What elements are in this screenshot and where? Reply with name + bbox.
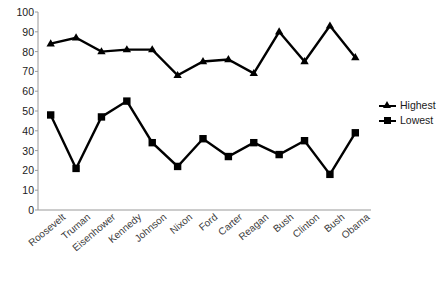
data-point-marker	[174, 163, 181, 170]
data-point-marker	[199, 135, 206, 142]
y-axis-tick-label: 100	[4, 7, 34, 18]
x-axis-tick-label: Clinton	[291, 212, 321, 240]
legend-item-lowest: Lowest	[379, 114, 443, 127]
data-point-marker	[72, 165, 79, 172]
x-axis-tick-labels: RooseveltTrumanEisenhowerKennedyJohnsonN…	[0, 212, 445, 291]
data-point-marker	[301, 137, 308, 144]
data-point-marker	[149, 139, 156, 146]
data-point-marker	[47, 111, 54, 118]
y-axis-tick-label: 60	[4, 86, 34, 97]
legend-label-highest: Highest	[400, 100, 436, 111]
chart-series	[46, 21, 359, 178]
y-axis-tick-label: 10	[4, 185, 34, 196]
y-axis-tick-label: 90	[4, 27, 34, 38]
y-axis-tick-label: 30	[4, 145, 34, 156]
y-axis-tick-label: 80	[4, 46, 34, 57]
legend-label-lowest: Lowest	[400, 115, 433, 126]
data-point-marker	[72, 33, 80, 40]
line-chart: 0102030405060708090100 RooseveltTrumanEi…	[0, 0, 445, 291]
y-axis-tick-labels: 0102030405060708090100	[0, 12, 34, 210]
y-axis-tick-label: 20	[4, 165, 34, 176]
data-point-marker	[352, 129, 359, 136]
triangle-marker-icon	[379, 100, 396, 111]
data-point-marker	[250, 139, 257, 146]
y-axis-tick-label: 70	[4, 66, 34, 77]
series-line-highest	[51, 26, 356, 76]
x-axis-tick-label: Obama	[340, 212, 372, 241]
data-point-marker	[326, 21, 334, 28]
data-point-marker	[275, 151, 282, 158]
legend-item-highest: Highest	[379, 99, 443, 112]
y-axis-tick-label: 50	[4, 106, 34, 117]
data-point-marker	[98, 113, 105, 120]
data-point-marker	[225, 153, 232, 160]
data-point-marker	[326, 171, 333, 178]
chart-legend: Highest Lowest	[379, 99, 443, 129]
data-point-marker	[123, 97, 130, 104]
data-point-marker	[275, 27, 283, 34]
square-marker-icon	[379, 115, 396, 126]
y-axis-tick-label: 40	[4, 126, 34, 137]
x-axis-tick-label: Nixon	[168, 212, 194, 236]
